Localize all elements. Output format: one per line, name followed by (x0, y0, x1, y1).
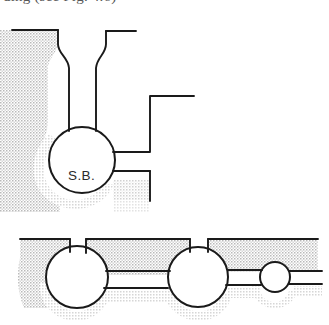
upper-outlet-step-top (113, 96, 194, 152)
caption-text: ding (see Fig. 4.6) (3, 0, 116, 5)
settling-basin-label: S.B. (68, 168, 95, 183)
figure-page: ding (see Fig. 4.6) (0, 0, 329, 325)
clipped-caption: ding (see Fig. 4.6) (0, 0, 329, 11)
lower-plan-view (18, 239, 322, 321)
technical-plan-drawing: S.B. (0, 0, 329, 325)
upper-plan-view: S.B. (0, 30, 194, 212)
upper-channel-void (60, 30, 136, 130)
